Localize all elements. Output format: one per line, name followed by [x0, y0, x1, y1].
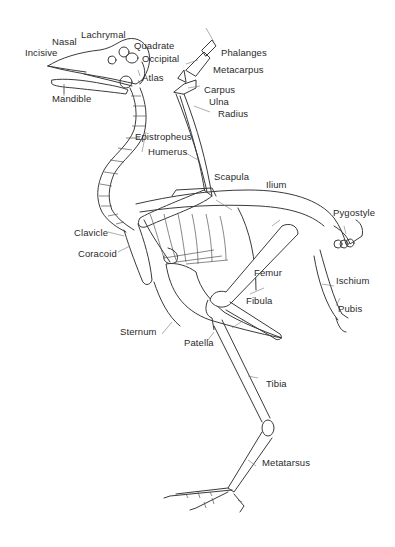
label-ilium: Ilium: [266, 180, 287, 190]
bird-skeleton-diagram: Incisive Nasal Lachrymal Quadrate Occipi…: [0, 0, 395, 547]
foot: [164, 432, 272, 512]
label-ischium: Ischium: [336, 276, 369, 286]
label-sternum: Sternum: [120, 327, 157, 337]
label-metacarpus: Metacarpus: [213, 65, 264, 75]
label-quadrate: Quadrate: [134, 41, 174, 51]
label-femur: Femur: [254, 268, 282, 278]
label-pygostyle: Pygostyle: [333, 208, 375, 218]
label-tibia: Tibia: [266, 379, 287, 389]
label-lachrymal: Lachrymal: [81, 30, 126, 40]
label-mandible: Mandible: [52, 94, 91, 104]
label-epistropheus: Epistropheus: [135, 132, 192, 142]
label-clavicle: Clavicle: [74, 228, 108, 238]
label-radius: Radius: [218, 109, 248, 119]
label-metatarsus: Metatarsus: [262, 458, 310, 468]
label-atlas: Atlas: [142, 73, 164, 83]
skeleton-drawing: [0, 0, 395, 547]
label-coracoid: Coracoid: [78, 249, 117, 259]
label-scapula: Scapula: [214, 172, 249, 182]
label-incisive: Incisive: [25, 48, 57, 58]
label-occipital: Occipital: [142, 54, 179, 64]
label-humerus: Humerus: [148, 147, 187, 157]
mandible: [52, 79, 128, 94]
label-pubis: Pubis: [338, 304, 362, 314]
label-ulna: Ulna: [209, 97, 229, 107]
label-patella: Patella: [184, 338, 214, 348]
label-phalanges: Phalanges: [221, 48, 267, 58]
label-fibula: Fibula: [246, 296, 272, 306]
label-nasal: Nasal: [52, 37, 77, 47]
cervical-vertebrae: [98, 88, 146, 232]
label-carpus: Carpus: [204, 85, 235, 95]
